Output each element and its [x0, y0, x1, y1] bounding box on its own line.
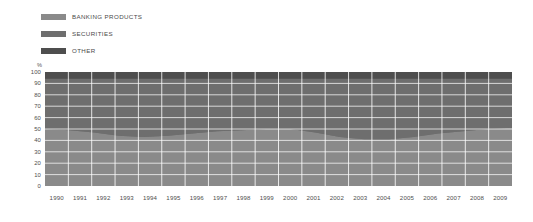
- x-tick-2009: 2009: [483, 194, 517, 201]
- gridlines: [45, 72, 512, 186]
- y-tick-70: 70: [15, 103, 41, 109]
- y-tick-30: 30: [15, 149, 41, 155]
- y-axis-unit-label: %: [37, 62, 42, 68]
- y-tick-0: 0: [15, 183, 41, 189]
- chart-page: BANKING PRODUCTS SECURITIES OTHER % 1009…: [0, 0, 533, 222]
- plot-canvas: [45, 72, 512, 186]
- y-tick-80: 80: [15, 92, 41, 98]
- chart-area: % 1009080706050403020100 199019911992199…: [0, 0, 533, 222]
- y-tick-50: 50: [15, 126, 41, 132]
- stacked-area-svg: [45, 72, 512, 186]
- y-tick-20: 20: [15, 160, 41, 166]
- y-tick-90: 90: [15, 80, 41, 86]
- y-tick-100: 100: [15, 69, 41, 75]
- y-tick-40: 40: [15, 137, 41, 143]
- y-tick-10: 10: [15, 172, 41, 178]
- y-tick-60: 60: [15, 115, 41, 121]
